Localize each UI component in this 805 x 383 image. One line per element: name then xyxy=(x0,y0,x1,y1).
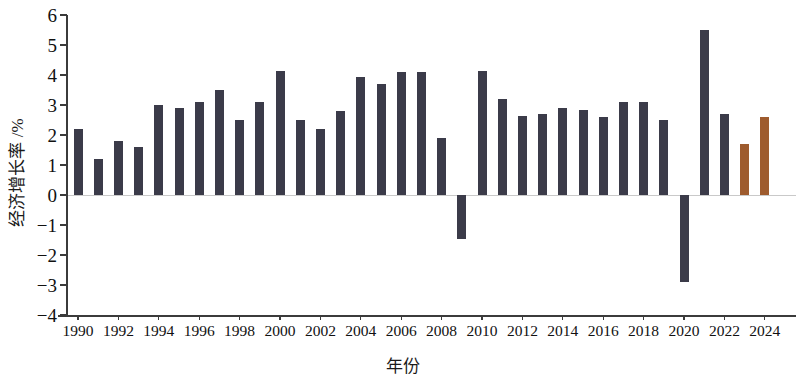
bar-1997 xyxy=(215,90,224,195)
x-axis-tick xyxy=(360,315,361,320)
y-axis-tick-label: 1 xyxy=(48,156,58,175)
bar-1996 xyxy=(195,102,204,195)
bar-2014 xyxy=(558,108,567,195)
bar-2004 xyxy=(356,77,365,196)
bar-2005 xyxy=(377,84,386,195)
bar-2024 xyxy=(760,117,769,195)
bar-1993 xyxy=(134,147,143,195)
x-axis-tick xyxy=(77,315,78,320)
x-axis-tick xyxy=(764,315,765,320)
bar-2002 xyxy=(316,129,325,195)
bar-2006 xyxy=(397,72,406,195)
y-axis-tick-label: −3 xyxy=(37,276,57,295)
x-axis-tick-label: 2004 xyxy=(345,323,376,339)
x-axis-tick-label: 2018 xyxy=(628,323,659,339)
bar-2000 xyxy=(276,71,285,196)
bar-2010 xyxy=(478,71,487,196)
x-axis-tick xyxy=(199,315,200,320)
bar-2019 xyxy=(659,120,668,195)
x-axis-tick-label: 2020 xyxy=(669,323,700,339)
x-axis-line xyxy=(58,315,796,317)
y-axis-tick-label: −1 xyxy=(37,216,57,235)
y-axis-tick-label: 3 xyxy=(48,96,58,115)
x-axis-tick xyxy=(320,315,321,320)
y-axis-tick xyxy=(60,224,67,225)
x-axis-title: 年份 xyxy=(0,352,805,377)
economic-growth-bar-chart: 经济增长率 /% 6543210−1−2−3−4 199019921994199… xyxy=(0,0,805,383)
x-axis-tick-label: 2022 xyxy=(709,323,740,339)
y-axis-tick-label: −2 xyxy=(37,246,57,265)
x-axis-tick-label: 2000 xyxy=(265,323,296,339)
bar-2008 xyxy=(437,138,446,195)
y-axis-tick xyxy=(60,74,67,75)
x-axis-tick-label: 1992 xyxy=(103,323,134,339)
x-axis-tick-label: 2002 xyxy=(305,323,336,339)
plot-area: 6543210−1−2−3−4 199019921994199619982000… xyxy=(66,15,796,315)
y-axis-tick-label: 5 xyxy=(48,36,58,55)
bar-1995 xyxy=(175,108,184,195)
x-axis-tick xyxy=(522,315,523,320)
y-axis-tick xyxy=(60,194,67,195)
x-axis-tick xyxy=(481,315,482,320)
bar-2007 xyxy=(417,72,426,195)
x-axis-tick-label: 2006 xyxy=(386,323,417,339)
x-axis-tick xyxy=(643,315,644,320)
y-axis-tick-label: 4 xyxy=(48,66,58,85)
bar-2011 xyxy=(498,99,507,195)
x-axis-tick-label: 1998 xyxy=(224,323,255,339)
x-axis-tick xyxy=(724,315,725,320)
x-axis-tick xyxy=(239,315,240,320)
bar-1992 xyxy=(114,141,123,195)
x-axis-tick-label: 2016 xyxy=(588,323,619,339)
x-axis-tick xyxy=(118,315,119,320)
y-axis-tick xyxy=(60,44,67,45)
bar-2003 xyxy=(336,111,345,195)
y-axis-tick xyxy=(60,164,67,165)
x-axis-tick xyxy=(683,315,684,320)
y-axis-tick xyxy=(60,314,67,315)
bar-2001 xyxy=(296,120,305,195)
y-axis-tick xyxy=(60,134,67,135)
bar-2023 xyxy=(740,144,749,195)
y-axis-tick xyxy=(60,254,67,255)
bar-1991 xyxy=(94,159,103,195)
bar-2012 xyxy=(518,116,527,196)
x-axis-tick-label: 2024 xyxy=(749,323,780,339)
y-axis-tick-label: 6 xyxy=(48,6,58,25)
y-axis-title: 经济增长率 /% xyxy=(3,73,28,273)
x-axis-tick-label: 1994 xyxy=(143,323,174,339)
bar-2017 xyxy=(619,102,628,195)
x-axis-tick xyxy=(401,315,402,320)
y-axis-tick xyxy=(60,284,67,285)
bar-1994 xyxy=(154,105,163,195)
y-axis-tick-label: 0 xyxy=(48,186,58,205)
x-axis-tick-label: 2014 xyxy=(547,323,578,339)
x-axis-tick xyxy=(279,315,280,320)
y-axis-tick-label: −4 xyxy=(37,306,57,325)
bar-2016 xyxy=(599,117,608,195)
x-axis-tick xyxy=(441,315,442,320)
x-axis-tick-label: 1990 xyxy=(63,323,94,339)
x-axis-tick-label: 2012 xyxy=(507,323,538,339)
bar-2015 xyxy=(579,110,588,196)
x-axis-tick xyxy=(562,315,563,320)
bar-2009 xyxy=(457,195,466,239)
bar-1998 xyxy=(235,120,244,195)
bar-1999 xyxy=(255,102,264,195)
y-axis-tick xyxy=(60,104,67,105)
y-axis-tick xyxy=(60,14,67,15)
bar-2022 xyxy=(720,114,729,195)
bar-1990 xyxy=(74,129,83,195)
x-axis-tick-label: 2010 xyxy=(467,323,498,339)
y-axis-tick-label: 2 xyxy=(48,126,58,145)
bar-2020 xyxy=(680,195,689,282)
x-axis-tick-label: 2008 xyxy=(426,323,457,339)
bar-2018 xyxy=(639,102,648,195)
x-axis-tick xyxy=(158,315,159,320)
x-axis-tick-label: 1996 xyxy=(184,323,215,339)
x-axis-tick xyxy=(603,315,604,320)
bar-2021 xyxy=(700,30,709,195)
bar-2013 xyxy=(538,114,547,195)
